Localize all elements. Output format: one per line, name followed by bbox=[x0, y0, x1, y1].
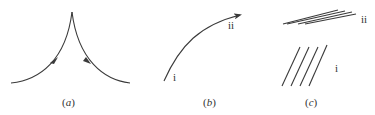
line-group-ii bbox=[283, 10, 356, 24]
diagram-canvas: (a) i ii (b) ii i (c) bbox=[0, 0, 375, 115]
caption-c: (c) bbox=[305, 96, 318, 109]
label-ii-c: ii bbox=[361, 13, 367, 25]
panel-a: (a) bbox=[11, 12, 130, 109]
cusp-right-curve bbox=[72, 12, 130, 83]
arrow-left-icon bbox=[50, 57, 58, 64]
caption-b: (b) bbox=[203, 96, 216, 109]
label-i-b: i bbox=[173, 71, 176, 83]
line-group-i bbox=[282, 45, 327, 86]
panel-c: ii i (c) bbox=[282, 10, 367, 109]
panel-b: i ii (b) bbox=[164, 15, 240, 109]
label-i-c: i bbox=[335, 62, 338, 74]
caption-a: (a) bbox=[62, 96, 75, 109]
label-ii-b: ii bbox=[228, 19, 234, 31]
cusp-left-curve bbox=[11, 12, 72, 83]
